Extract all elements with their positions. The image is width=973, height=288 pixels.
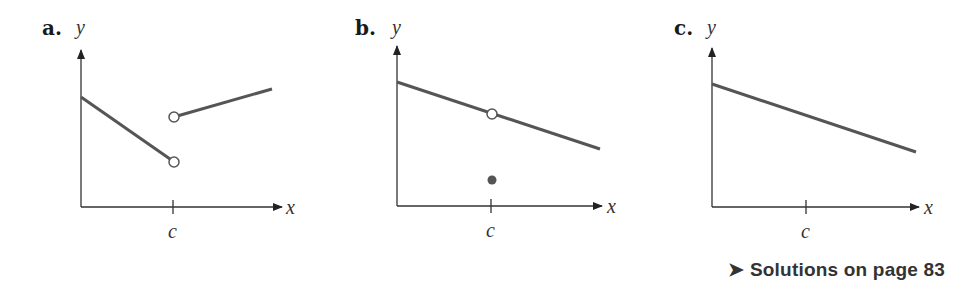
right-segment	[179, 89, 272, 116]
x-axis-label: x	[285, 196, 295, 218]
panel-label: c.	[674, 16, 693, 40]
arrow-icon: ➤	[728, 258, 744, 281]
y-axis-label: y	[705, 16, 716, 39]
solutions-reference: ➤Solutions on page 83	[728, 258, 945, 281]
y-axis-label: y	[390, 16, 401, 39]
panel-a: a. y x c	[42, 16, 295, 242]
open-circle	[169, 112, 179, 122]
c-tick-label: c	[486, 219, 495, 241]
panel-c: c. y x c	[674, 16, 933, 242]
c-tick-label: c	[168, 220, 177, 242]
c-tick-label: c	[801, 220, 810, 242]
panel-label: a.	[42, 16, 62, 40]
figure: a. y x c b. y x c c. y x c	[0, 0, 973, 288]
open-circle	[487, 109, 497, 119]
panel-b: b. y x c	[355, 16, 616, 241]
x-axis-label: x	[923, 196, 933, 218]
panel-label: b.	[355, 16, 376, 40]
open-circle	[169, 157, 179, 167]
filled-point	[488, 176, 497, 185]
x-axis-label: x	[606, 195, 616, 217]
solutions-text: Solutions on page 83	[750, 259, 945, 280]
y-axis-label: y	[74, 16, 85, 39]
left-segment	[81, 97, 170, 159]
line	[397, 82, 600, 149]
line	[712, 84, 916, 152]
